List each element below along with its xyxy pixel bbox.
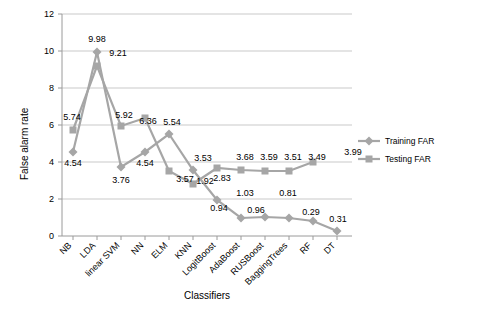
data-label-training-nn: 4.54 (136, 158, 154, 168)
data-label-training-rusboost: 1.03 (236, 188, 254, 198)
data-label-testing-adaboost: 3.59 (260, 152, 278, 162)
legend-diamond-icon (365, 137, 374, 146)
data-label-training-knn: 3.57 (176, 174, 194, 184)
data-label-training-baggingtrees: 0.96 (247, 205, 265, 215)
y-axis-title: False alarm rate (19, 107, 30, 180)
chart-container: 0 2 4 6 8 10 12 False alarm rate Classif… (0, 0, 478, 313)
x-axis-title: Classifiers (184, 290, 230, 301)
y-tick-label-0: 0 (49, 231, 54, 241)
data-label-training-lda: 9.98 (88, 34, 106, 44)
data-label-testing-elm: 3.53 (194, 153, 212, 163)
x-label-rf: RF (298, 240, 314, 256)
x-label-nb: NB (57, 240, 73, 256)
data-label-testing-baggingtrees: 3.49 (308, 152, 326, 162)
data-label-training-linear-svm: 3.76 (112, 175, 130, 185)
data-label-training-rf: 0.81 (279, 188, 297, 198)
x-label-dt: DT (322, 240, 338, 256)
chart-legend: Training FAR Testing FAR (358, 136, 434, 164)
y-tick-label-12: 12 (44, 9, 54, 19)
data-label-testing-rusboost: 3.51 (284, 152, 302, 162)
x-label-lda: LDA (78, 240, 97, 259)
legend-label-testing: Testing FAR (385, 154, 431, 164)
data-label-training-dt: 0.29 (302, 207, 320, 217)
y-tick-label-2: 2 (49, 194, 54, 204)
data-label-testing-knn: 2.83 (213, 173, 231, 183)
x-label-baggingtrees: BaggingTrees (243, 240, 290, 287)
data-label-training-elm: 5.54 (163, 117, 181, 127)
data-label-testing-lda: 9.21 (109, 48, 127, 58)
y-tick-label-6: 6 (49, 120, 54, 130)
legend-square-icon (366, 156, 373, 163)
y-tick-label-4: 4 (49, 157, 54, 167)
data-label-testing-nn: 6.36 (139, 116, 157, 126)
y-tick-label-8: 8 (49, 83, 54, 93)
data-label-training-dt-end: 0.31 (329, 214, 347, 224)
data-label-testing-rf: 3.99 (344, 147, 362, 157)
data-label-testing-logitboost: 3.68 (236, 152, 254, 162)
x-label-knn: KNN (173, 240, 194, 261)
data-label-training-adaboost: 0.94 (210, 203, 228, 213)
data-label-training-logitboost: 1.92 (196, 176, 214, 186)
false-alarm-rate-line-chart: 0 2 4 6 8 10 12 False alarm rate Classif… (0, 0, 478, 313)
data-label-testing-nb: 5.74 (63, 112, 81, 122)
data-label-testing-linear-svm: 5.92 (115, 110, 133, 120)
x-label-nn: NN (129, 240, 145, 256)
data-label-training-nb: 4.54 (64, 158, 82, 168)
x-label-elm: ELM (149, 240, 169, 260)
legend-label-training: Training FAR (385, 136, 434, 146)
y-tick-label-10: 10 (44, 46, 54, 56)
